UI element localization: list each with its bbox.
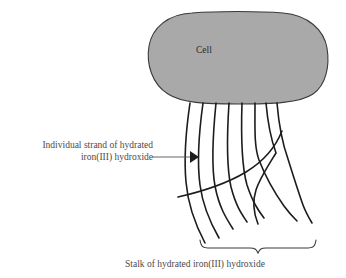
strand-2 xyxy=(199,103,219,238)
strand-6 xyxy=(255,103,297,221)
strand-crossing xyxy=(178,131,282,197)
strand-1 xyxy=(185,103,205,243)
cell-shape xyxy=(148,12,328,105)
strand-group xyxy=(178,103,312,243)
cell-label: Cell xyxy=(196,44,212,56)
annotation-arrow xyxy=(152,151,199,163)
strand-annotation-line2: iron(III) hydroxide xyxy=(0,151,153,163)
curly-brace-icon xyxy=(200,240,316,253)
strand-annotation-line1: Individual strand of hydrated xyxy=(42,140,153,150)
strand-8 xyxy=(277,103,312,223)
stalk-caption: Stalk of hydrated iron(III) hydroxide xyxy=(0,258,346,270)
strand-3 xyxy=(213,103,233,229)
strand-annotation-label: Individual strand of hydrated iron(III) … xyxy=(0,139,153,163)
arrow-head-icon xyxy=(190,151,199,163)
strand-4 xyxy=(227,103,247,222)
